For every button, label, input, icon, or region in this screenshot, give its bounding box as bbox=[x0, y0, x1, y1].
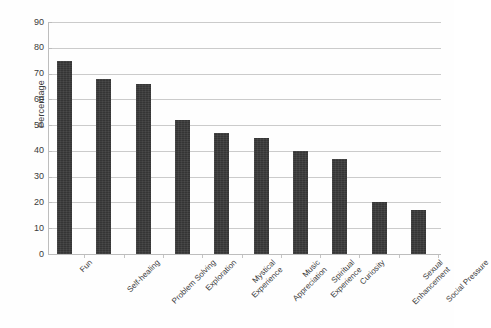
x-axis-tick-label-line: Fun bbox=[78, 258, 94, 274]
x-axis-tick-label: SexualEnhancement bbox=[403, 258, 451, 306]
x-axis-tick-label-line: Social Pressure bbox=[444, 258, 490, 304]
x-axis-tick-mark bbox=[320, 255, 321, 258]
y-axis-tick-mark bbox=[48, 254, 52, 255]
y-axis-tick-label: 50 bbox=[18, 121, 44, 130]
y-axis-tick-mark bbox=[48, 177, 52, 178]
y-axis-tick-mark bbox=[48, 22, 52, 23]
y-axis-tick-label: 40 bbox=[18, 146, 44, 155]
gridline bbox=[48, 48, 441, 49]
x-axis-tick-label: Curiosity bbox=[358, 258, 387, 287]
bar[interactable] bbox=[372, 202, 387, 254]
y-axis-tick-label: 20 bbox=[18, 198, 44, 207]
y-axis-tick-labels: 0102030405060708090 bbox=[12, 0, 44, 328]
y-axis-tick-label: 30 bbox=[18, 172, 44, 181]
y-axis-tick-mark bbox=[48, 228, 52, 229]
gridline bbox=[48, 22, 441, 23]
y-axis-tick-mark bbox=[48, 202, 52, 203]
bar[interactable] bbox=[136, 84, 151, 254]
x-axis-tick-label-line: Curiosity bbox=[358, 258, 387, 287]
y-axis-tick-mark bbox=[48, 125, 52, 126]
x-axis-tick-label: Fun bbox=[78, 258, 94, 274]
x-axis-tick-label: SpiritualExperience bbox=[322, 258, 364, 300]
plot-area bbox=[48, 22, 441, 254]
x-axis-tick-mark bbox=[202, 255, 203, 258]
y-axis-tick-label: 80 bbox=[18, 43, 44, 52]
y-axis-tick-label: 60 bbox=[18, 95, 44, 104]
x-axis-tick-mark bbox=[359, 255, 360, 258]
x-axis-tick-mark bbox=[84, 255, 85, 258]
bar[interactable] bbox=[254, 138, 269, 254]
bar[interactable] bbox=[293, 151, 308, 254]
x-axis-tick-mark bbox=[124, 255, 125, 258]
bar[interactable] bbox=[332, 159, 347, 254]
x-axis-tick-mark bbox=[281, 255, 282, 258]
x-axis-tick-label: Self-healing bbox=[126, 258, 163, 295]
bar[interactable] bbox=[57, 61, 72, 254]
bar[interactable] bbox=[175, 120, 190, 254]
y-axis-tick-label: 0 bbox=[18, 250, 44, 259]
bar[interactable] bbox=[214, 133, 229, 254]
y-axis-tick-mark bbox=[48, 48, 52, 49]
bar[interactable] bbox=[411, 210, 426, 254]
x-axis-tick-label: MysticalExperience bbox=[243, 258, 285, 300]
x-axis-tick-mark bbox=[438, 255, 439, 258]
bar[interactable] bbox=[96, 79, 111, 254]
y-axis-tick-mark bbox=[48, 74, 52, 75]
x-axis-tick-label: MusicAppreciation bbox=[284, 258, 329, 303]
x-axis-tick-mark bbox=[242, 255, 243, 258]
x-axis-line bbox=[48, 254, 441, 255]
x-axis-tick-mark bbox=[399, 255, 400, 258]
y-axis-tick-label: 70 bbox=[18, 69, 44, 78]
y-axis-tick-label: 10 bbox=[18, 224, 44, 233]
y-axis-tick-label: 90 bbox=[18, 18, 44, 27]
gridline bbox=[48, 74, 441, 75]
x-axis-tick-label-line: Self-healing bbox=[126, 258, 163, 295]
x-axis-tick-mark bbox=[163, 255, 164, 258]
x-axis-tick-label: Social Pressure bbox=[444, 258, 490, 304]
y-axis-line bbox=[48, 22, 49, 255]
y-axis-tick-mark bbox=[48, 99, 52, 100]
y-axis-tick-mark bbox=[48, 151, 52, 152]
